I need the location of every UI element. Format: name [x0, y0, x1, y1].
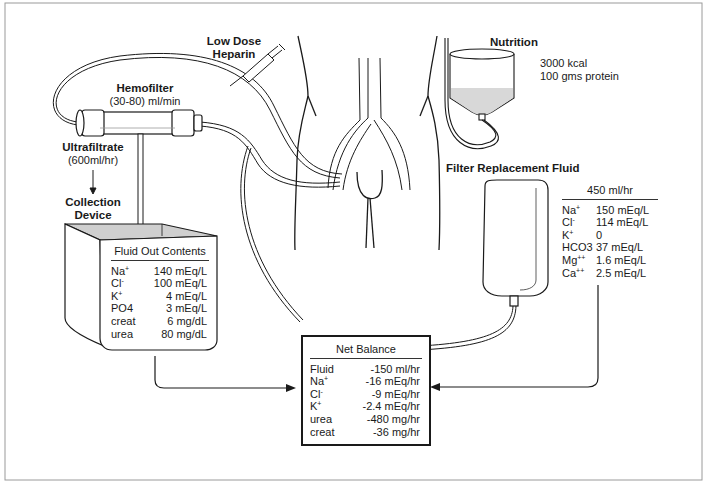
fluid-out-rows: Na+140 mEq/LCl-100 mEq/LK+4 mEq/LPO43 mE…	[111, 265, 209, 341]
table-row: Na+140 mEq/L	[111, 265, 209, 278]
row-value: -480 mg/hr	[354, 413, 420, 426]
row-key: K+	[310, 400, 354, 413]
row-value: 140 mEq/L	[145, 265, 207, 278]
nutrition-kcal: 3000 kcal	[540, 57, 619, 70]
table-row: Mg++1.6 mEq/L	[562, 254, 658, 267]
row-value: -2.4 mEq/hr	[354, 400, 420, 413]
row-key: Cl-	[111, 277, 145, 290]
arrow-head-left-in	[286, 384, 296, 392]
femoral-vessels	[328, 58, 410, 190]
table-row: Fluid-150 ml/hr	[310, 363, 422, 376]
table-row: HCO337 mEq/L	[562, 241, 658, 254]
body-figure	[295, 36, 440, 250]
table-row: creat-36 mg/hr	[310, 426, 422, 439]
row-value: -150 ml/hr	[354, 363, 420, 376]
row-key: K+	[562, 229, 596, 242]
table-row: K+0	[562, 229, 658, 242]
nutrition-bag-icon	[445, 38, 514, 149]
row-value: 80 mg/dL	[145, 328, 207, 341]
net-balance-title: Net Balance	[310, 343, 422, 359]
fluid-out-table: Fluid Out Contents Na+140 mEq/LCl-100 mE…	[111, 245, 209, 340]
row-value: -9 mEq/hr	[354, 388, 420, 401]
row-key: Na+	[562, 204, 596, 217]
hemofilter-title: Hemofilter	[90, 82, 200, 95]
arrow-head-right-in	[430, 383, 440, 391]
row-value: 1.6 mEq/L	[596, 254, 656, 267]
row-value: 3 mEq/L	[145, 302, 207, 315]
row-key: Cl-	[310, 388, 354, 401]
row-value: 100 mEq/L	[145, 277, 207, 290]
row-value: 114 mEq/L	[596, 216, 656, 229]
collection-label-line2: Device	[58, 209, 128, 222]
row-key: Na+	[310, 375, 354, 388]
table-row: K+4 mEq/L	[111, 290, 209, 303]
ultrafiltrate-rate: (600ml/hr)	[58, 154, 128, 167]
nutrition-title: Nutrition	[490, 36, 538, 49]
row-value: 2.5 mEq/L	[596, 267, 656, 280]
replacement-fluid-title: Filter Replacement Fluid	[446, 162, 580, 175]
row-key: creat	[310, 426, 354, 439]
row-key: Na+	[111, 265, 145, 278]
row-key: creat	[111, 315, 145, 328]
row-key: urea	[310, 413, 354, 426]
replacement-fluid-table: 450 ml/hr Na+150 mEq/LCl-114 mEq/LK+0HCO…	[562, 184, 658, 279]
net-balance-rows: Fluid-150 ml/hrNa+-16 mEq/hrCl--9 mEq/hr…	[310, 363, 422, 439]
row-value: 0	[596, 229, 656, 242]
row-key: Ca++	[562, 267, 596, 280]
net-balance-table: Net Balance Fluid-150 ml/hrNa+-16 mEq/hr…	[310, 343, 422, 438]
table-row: Cl-114 mEq/L	[562, 216, 658, 229]
fluid-out-title: Fluid Out Contents	[111, 245, 209, 261]
table-row: Cl-100 mEq/L	[111, 277, 209, 290]
heparin-label-line2: Heparin	[198, 48, 270, 61]
row-key: HCO3	[562, 241, 596, 254]
replacement-rate: 450 ml/hr	[562, 184, 658, 200]
nutrition-protein: 100 gms protein	[540, 70, 619, 83]
hemofilter-label: Hemofilter (30-80) ml/min	[90, 82, 200, 108]
collection-device-label: Collection Device	[58, 196, 128, 222]
table-row: Ca++2.5 mEq/L	[562, 267, 658, 280]
row-key: K+	[111, 290, 145, 303]
table-row: Na+-16 mEq/hr	[310, 375, 422, 388]
row-key: Fluid	[310, 363, 354, 376]
row-value: -16 mEq/hr	[354, 375, 420, 388]
row-key: Cl-	[562, 216, 596, 229]
row-value: 4 mEq/L	[145, 290, 207, 303]
replacement-rows: Na+150 mEq/LCl-114 mEq/LK+0HCO337 mEq/LM…	[562, 204, 658, 280]
row-key: urea	[111, 328, 145, 341]
row-key: PO4	[111, 302, 145, 315]
row-value: 6 mg/dL	[145, 315, 207, 328]
replacement-line	[420, 306, 516, 350]
replacement-bag-icon	[483, 180, 548, 306]
table-row: Na+150 mEq/L	[562, 204, 658, 217]
row-value: 37 mEq/L	[596, 241, 656, 254]
heparin-label: Low Dose Heparin	[198, 35, 270, 61]
table-row: creat6 mg/dL	[111, 315, 209, 328]
ultrafiltrate-label: Ultrafiltrate (600ml/hr)	[58, 141, 128, 167]
ultrafiltrate-title: Ultrafiltrate	[58, 141, 128, 154]
table-row: urea-480 mg/hr	[310, 413, 422, 426]
heparin-label-line1: Low Dose	[198, 35, 270, 48]
table-row: K+-2.4 mEq/hr	[310, 400, 422, 413]
ultrafiltrate-arrow-icon	[90, 170, 96, 194]
row-value: -36 mg/hr	[354, 426, 420, 439]
table-row: Cl--9 mEq/hr	[310, 388, 422, 401]
nutrition-details: 3000 kcal 100 gms protein	[540, 57, 619, 83]
table-row: PO43 mEq/L	[111, 302, 209, 315]
collection-label-line1: Collection	[58, 196, 128, 209]
row-key: Mg++	[562, 254, 596, 267]
table-row: urea80 mg/dL	[111, 328, 209, 341]
hemofilter-rate: (30-80) ml/min	[90, 95, 200, 108]
row-value: 150 mEq/L	[596, 204, 656, 217]
